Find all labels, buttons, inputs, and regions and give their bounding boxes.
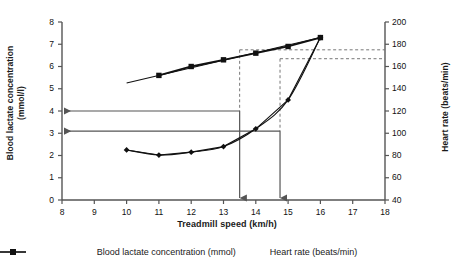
x-axis-tick-label: 17: [343, 207, 363, 217]
y-axis-left-tick-label: 8: [38, 17, 54, 27]
y-axis-left-tick-label: 0: [38, 195, 54, 205]
square-marker-icon: [0, 247, 26, 257]
y-axis-right-tick-label: 140: [392, 83, 414, 93]
lactate-data-point: [156, 152, 162, 158]
legend-item[interactable]: Heart rate (beats/min): [270, 247, 358, 257]
heart-rate-data-point: [221, 57, 226, 62]
lactate-heart-rate-chart: Blood lactate concentration (mmol/l) Hea…: [0, 0, 454, 271]
heart-rate-data-point: [285, 44, 290, 49]
y-axis-right-tick-label: 200: [392, 17, 414, 27]
y-axis-left-tick-label: 4: [38, 106, 54, 116]
y-axis-left-tick-label: 2: [38, 150, 54, 160]
heart-rate-data-point: [318, 35, 323, 40]
x-axis-tick-label: 16: [310, 207, 330, 217]
y-axis-left-tick-label: 7: [38, 39, 54, 49]
lactate-data-point: [124, 147, 130, 153]
lactate-curve: [127, 38, 321, 156]
x-axis-tick-label: 18: [375, 207, 395, 217]
x-axis-tick-label: 12: [181, 207, 201, 217]
heart-rate-data-point: [189, 64, 194, 69]
lactate-data-point: [188, 149, 194, 155]
y-axis-right-tick-label: 180: [392, 39, 414, 49]
y-axis-right-tick-label: 40: [392, 195, 414, 205]
y-axis-left-tick-label: 1: [38, 172, 54, 182]
y-axis-right-tick-label: 160: [392, 61, 414, 71]
x-axis-tick-label: 9: [84, 207, 104, 217]
y-axis-left-tick-label: 6: [38, 61, 54, 71]
legend-item[interactable]: Blood lactate concentration (mmol): [97, 247, 236, 257]
x-axis-tick-label: 11: [149, 207, 169, 217]
y-axis-left-tick-label: 5: [38, 83, 54, 93]
chart-legend: Blood lactate concentration (mmol)Heart …: [0, 247, 454, 257]
legend-item-label: Heart rate (beats/min): [270, 247, 358, 257]
legend-item-label: Blood lactate concentration (mmol): [97, 247, 236, 257]
x-axis-tick-label: 10: [117, 207, 137, 217]
y-axis-left-tick-label: 3: [38, 128, 54, 138]
y-axis-right-tick-label: 80: [392, 150, 414, 160]
lactate-line: [127, 38, 321, 155]
lactate-data-point: [221, 144, 227, 150]
heart-rate-data-point: [156, 73, 161, 78]
heart-rate-data-point: [253, 50, 258, 55]
y-axis-right-tick-label: 100: [392, 128, 414, 138]
x-axis-tick-label: 13: [214, 207, 234, 217]
y-axis-right-tick-label: 120: [392, 106, 414, 116]
x-axis-tick-label: 14: [246, 207, 266, 217]
plot-area: [0, 0, 454, 271]
y-axis-right-tick-label: 60: [392, 172, 414, 182]
x-axis-tick-label: 8: [52, 207, 72, 217]
x-axis-tick-label: 15: [278, 207, 298, 217]
